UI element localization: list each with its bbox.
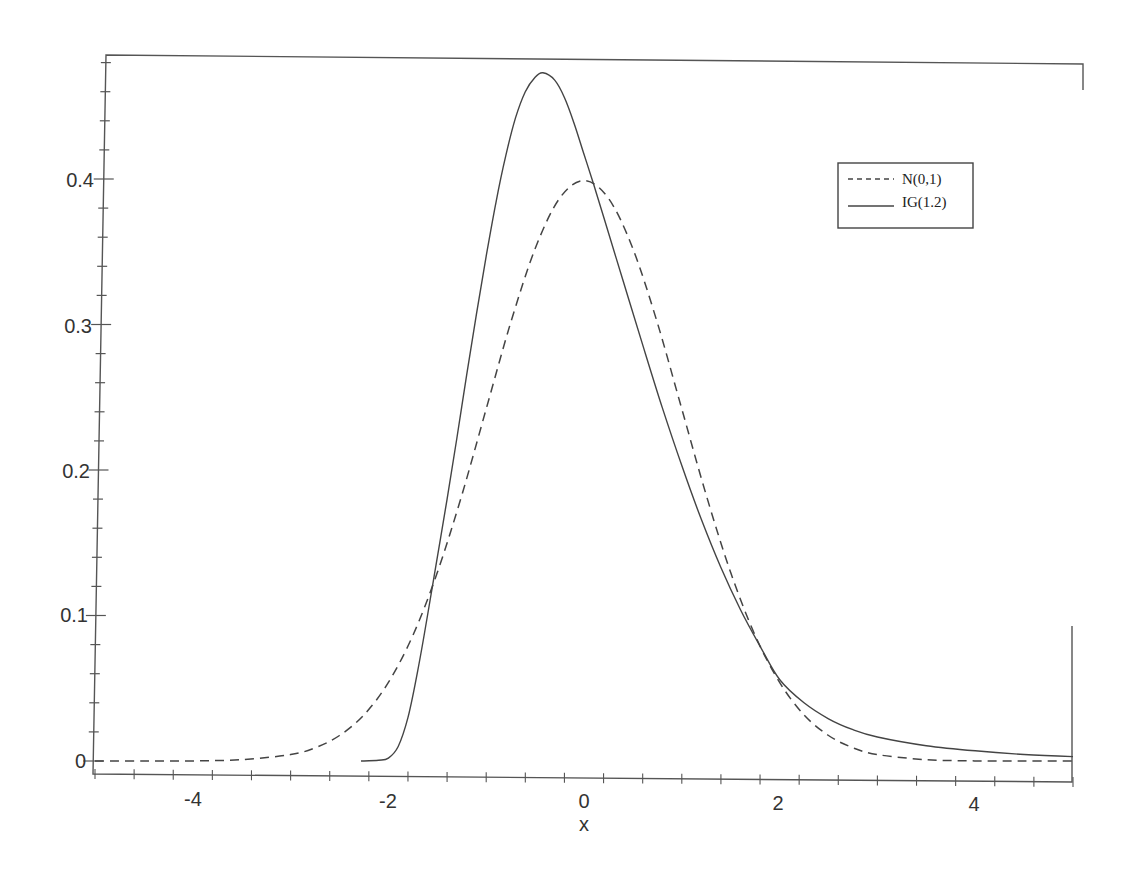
legend-label-ig: IG(1.2): [902, 194, 947, 211]
x-tick-label-0: 0: [578, 790, 589, 812]
x-tick-label-4: 4: [968, 793, 979, 815]
y-tick-label-0.4: 0.4: [66, 169, 94, 191]
y-tick-label-0.2: 0.2: [62, 460, 90, 482]
x-axis-labels: -4 -2 0 2 4 x: [184, 788, 979, 835]
x-tick-label-2: 2: [772, 792, 783, 814]
density-chart: 0 0.1 0.2 0.3 0.4 -4 -2 0 2 4 x N(0,1) I…: [0, 0, 1131, 870]
y-tick-label-0.3: 0.3: [64, 315, 92, 337]
y-axis-labels: 0 0.1 0.2 0.3 0.4: [60, 169, 94, 772]
y-axis-ticks: [83, 63, 114, 761]
normal-density-curve: [95, 181, 1073, 761]
x-tick-label--4: -4: [184, 788, 202, 810]
legend-label-normal: N(0,1): [902, 171, 942, 188]
x-axis-title: x: [579, 813, 589, 835]
y-tick-label-0.1: 0.1: [60, 604, 88, 626]
legend: N(0,1) IG(1.2): [838, 163, 973, 228]
y-tick-label-0: 0: [75, 750, 86, 772]
x-tick-label--2: -2: [379, 790, 397, 812]
